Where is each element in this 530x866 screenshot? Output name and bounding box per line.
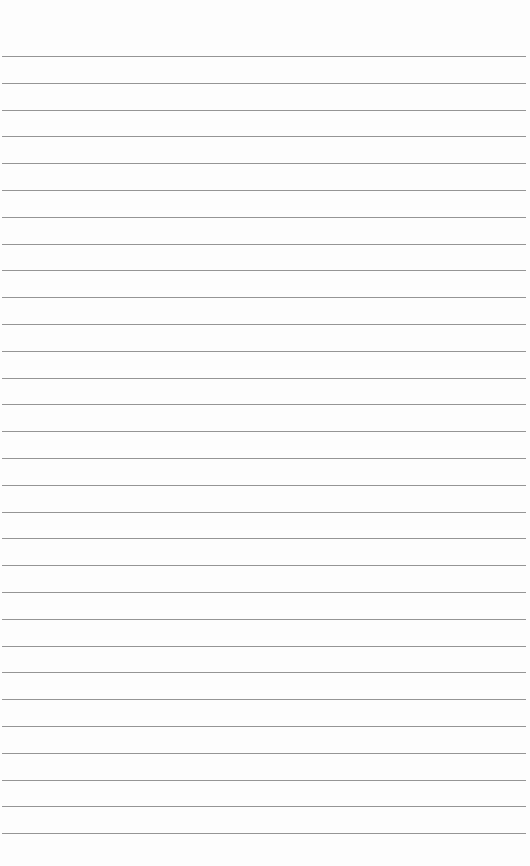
ruled-line — [2, 646, 526, 647]
ruled-line — [2, 806, 526, 807]
ruled-line — [2, 592, 526, 593]
ruled-line — [2, 351, 526, 352]
ruled-line — [2, 753, 526, 754]
ruled-line — [2, 404, 526, 405]
ruled-line — [2, 833, 526, 834]
ruled-line — [2, 297, 526, 298]
ruled-line — [2, 538, 526, 539]
ruled-line — [2, 163, 526, 164]
ruled-line — [2, 217, 526, 218]
ruled-line — [2, 431, 526, 432]
ruled-line — [2, 512, 526, 513]
ruled-line — [2, 136, 526, 137]
ruled-line — [2, 458, 526, 459]
ruled-line — [2, 244, 526, 245]
ruled-line — [2, 485, 526, 486]
ruled-paper-page — [0, 0, 530, 866]
ruled-line — [2, 270, 526, 271]
ruled-line — [2, 565, 526, 566]
ruled-line — [2, 110, 526, 111]
ruled-line — [2, 619, 526, 620]
ruled-line — [2, 190, 526, 191]
ruled-line — [2, 378, 526, 379]
ruled-line — [2, 324, 526, 325]
ruled-line — [2, 672, 526, 673]
ruled-line — [2, 726, 526, 727]
ruled-line — [2, 699, 526, 700]
ruled-line — [2, 780, 526, 781]
ruled-line — [2, 83, 526, 84]
ruled-line — [2, 56, 526, 57]
